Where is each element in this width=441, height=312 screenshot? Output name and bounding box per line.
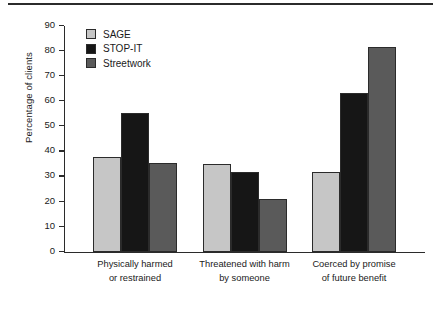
y-tick-20: 20	[59, 201, 64, 202]
bar-streetwork	[149, 163, 177, 252]
x-category-label-line: of future benefit	[312, 272, 395, 286]
bar-stop-it	[121, 113, 149, 252]
chart-legend: SAGESTOP-ITStreetwork	[86, 27, 151, 71]
y-tick-90: 90	[59, 25, 64, 26]
y-tick-label: 80	[44, 43, 55, 56]
x-category-label: Physically harmedor restrained	[97, 258, 172, 285]
y-tick-80: 80	[59, 50, 64, 51]
legend-item: STOP-IT	[86, 42, 151, 57]
chart-figure: Percentage of clients 010203040506070809…	[0, 0, 441, 312]
legend-label: Streetwork	[103, 58, 151, 69]
legend-item: SAGE	[86, 27, 151, 42]
bar-sage	[312, 172, 340, 252]
top-divider-rule	[8, 3, 433, 5]
y-tick-label: 90	[44, 18, 55, 31]
y-tick-60: 60	[59, 100, 64, 101]
bar-streetwork	[259, 199, 287, 252]
legend-swatch-icon	[86, 58, 96, 68]
y-tick-label: 20	[44, 194, 55, 207]
y-tick-0: 0	[59, 251, 64, 252]
x-category-label-line: Coerced by promise	[312, 258, 395, 272]
legend-label: STOP-IT	[103, 43, 142, 54]
bar-stop-it	[231, 172, 259, 252]
y-axis-line	[64, 26, 65, 252]
y-tick-label: 30	[44, 168, 55, 181]
y-tick-label: 60	[44, 93, 55, 106]
legend-swatch-icon	[86, 29, 96, 39]
bar-group-bars	[312, 26, 396, 252]
y-tick-50: 50	[59, 125, 64, 126]
y-tick-30: 30	[59, 175, 64, 176]
bar-sage	[93, 157, 121, 252]
legend-label: SAGE	[103, 29, 131, 40]
y-tick-70: 70	[59, 75, 64, 76]
x-category-label-line: Threatened with harm	[199, 258, 289, 272]
x-axis-line	[64, 252, 425, 253]
bar-group-bars	[203, 26, 287, 252]
bar-sage	[203, 164, 231, 252]
y-tick-label: 50	[44, 118, 55, 131]
y-tick-40: 40	[59, 150, 64, 151]
x-category-label-line: or restrained	[97, 272, 172, 286]
x-category-label: Coerced by promiseof future benefit	[312, 258, 395, 285]
y-tick-label: 0	[50, 244, 55, 257]
y-tick-label: 40	[44, 143, 55, 156]
legend-swatch-icon	[86, 44, 96, 54]
legend-item: Streetwork	[86, 56, 151, 71]
x-category-label-line: by someone	[199, 272, 289, 286]
x-category-label-line: Physically harmed	[97, 258, 172, 272]
bar-streetwork	[368, 47, 396, 252]
bar-group: Coerced by promiseof future benefit	[312, 26, 396, 252]
y-tick-label: 70	[44, 68, 55, 81]
bar-group: Threatened with harmby someone	[203, 26, 287, 252]
bar-stop-it	[340, 93, 368, 252]
y-axis-title: Percentage of clients	[23, 33, 34, 163]
x-category-label: Threatened with harmby someone	[199, 258, 289, 285]
y-tick-label: 10	[44, 219, 55, 232]
y-tick-10: 10	[59, 226, 64, 227]
